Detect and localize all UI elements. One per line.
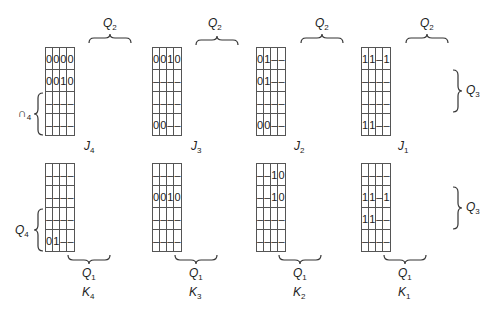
kmap-cell: –	[153, 164, 160, 186]
kmap-cell: 1	[362, 48, 369, 70]
kmap-cell: 0	[257, 114, 264, 136]
kmap-cell: –	[160, 230, 167, 252]
kmap-cell: 0	[53, 70, 60, 92]
kmap-cell: 0	[174, 48, 181, 70]
kmap-cell: –	[257, 186, 264, 208]
kmap-grid-j4: 0000 0010 –––– ––––	[45, 47, 75, 136]
kmap-cell: 0	[46, 70, 53, 92]
kmap-cell: 1	[167, 186, 174, 208]
kmap-cell: –	[53, 186, 60, 208]
kmap-cell: –	[67, 186, 74, 208]
kmap-cell: –	[264, 92, 271, 114]
kmap-cell: 1	[369, 186, 376, 208]
kmap-cell: 1	[271, 186, 278, 208]
kmap-cell: –	[271, 48, 278, 70]
kmap-cell: –	[53, 92, 60, 114]
kmap-cell: 1	[383, 186, 390, 208]
kmap-cell: –	[383, 92, 390, 114]
kmap-cell: –	[46, 92, 53, 114]
q1-brace-k1	[383, 255, 427, 265]
kmap-cell: –	[376, 114, 383, 136]
kmap-cell: –	[67, 114, 74, 136]
kmap-cell: 1	[362, 186, 369, 208]
kmap-cell: –	[60, 186, 67, 208]
kmap-grid-k4: –––– –––– –––– 01––	[45, 163, 75, 252]
kmap-cell: 0	[278, 164, 285, 186]
kmap-cell: –	[174, 164, 181, 186]
kmap-grid-k1: –––– 11–1 11–– ––––	[361, 163, 391, 252]
kmap-cell: –	[376, 92, 383, 114]
q2-label-j2: Q2	[315, 16, 329, 32]
kmap-cell: 0	[264, 114, 271, 136]
kmap-cell: 0	[153, 114, 160, 136]
q4-label-k4: Q4	[15, 223, 29, 239]
kmap-cell: –	[167, 164, 174, 186]
kmap-cell: –	[271, 70, 278, 92]
kmap-grid-j1: 11–1 –––– –––– 11––	[361, 47, 391, 136]
kmap-cell: –	[167, 230, 174, 252]
kmap-cell: –	[257, 92, 264, 114]
q2-label-j3: Q2	[208, 16, 222, 32]
kmap-cell: 1	[362, 114, 369, 136]
q2-label-j1: Q2	[420, 16, 434, 32]
kmap-cell: –	[369, 164, 376, 186]
kmap-cell: –	[160, 70, 167, 92]
kmap-cell: –	[67, 164, 74, 186]
kmap-cell: –	[53, 208, 60, 230]
q4-brace-k4	[34, 208, 44, 252]
kmap-cell: 0	[67, 70, 74, 92]
kmap-cell: –	[167, 92, 174, 114]
q2-brace-j4	[88, 34, 132, 44]
kmap-cell: –	[264, 186, 271, 208]
q3-brace-k1	[452, 186, 462, 230]
kmap-cell: –	[153, 70, 160, 92]
kmap-cell: –	[271, 114, 278, 136]
kmap-cell: 0	[278, 186, 285, 208]
kmap-cell: –	[257, 164, 264, 186]
q1-brace-k4	[67, 255, 111, 265]
kmap-cell: –	[53, 114, 60, 136]
kmap-cell: 1	[264, 70, 271, 92]
kmap-cell: –	[174, 70, 181, 92]
kmap-cell: –	[376, 230, 383, 252]
map-title-j1: J1	[398, 139, 408, 155]
q3-label-j1: Q3	[466, 83, 480, 99]
q3-label-k1: Q3	[466, 200, 480, 216]
kmap-cell: 0	[174, 186, 181, 208]
kmap-cell: –	[60, 208, 67, 230]
kmap-cell: 1	[60, 70, 67, 92]
kmap-cell: 0	[153, 186, 160, 208]
q2-brace-j2	[300, 34, 344, 44]
kmap-cell: –	[46, 186, 53, 208]
kmap-cell: –	[60, 230, 67, 252]
kmap-cell: 1	[167, 48, 174, 70]
kmap-cell: –	[264, 164, 271, 186]
kmap-cell: –	[60, 164, 67, 186]
kmap-cell: –	[271, 230, 278, 252]
kmap-cell: 1	[383, 48, 390, 70]
kmap-cell: 0	[153, 48, 160, 70]
map-title-k2: K2	[293, 285, 305, 301]
kmap-cell: –	[174, 114, 181, 136]
kmap-cell: –	[153, 208, 160, 230]
kmap-cell: –	[174, 230, 181, 252]
kmap-cell: –	[264, 230, 271, 252]
kmap-cell: –	[362, 70, 369, 92]
kmap-cell: –	[264, 208, 271, 230]
kmap-cell: –	[160, 208, 167, 230]
kmap-cell: 1	[369, 114, 376, 136]
kmap-cell: –	[362, 164, 369, 186]
q1-label-k1: Q1	[398, 266, 412, 282]
kmap-cell: 0	[67, 48, 74, 70]
q2-label-j4: Q2	[103, 16, 117, 32]
kmap-cell: 0	[60, 48, 67, 70]
kmap-cell: –	[271, 208, 278, 230]
kmap-cell: –	[257, 230, 264, 252]
q1-label-k3: Q1	[189, 266, 203, 282]
kmap-cell: 0	[160, 114, 167, 136]
kmap-cell: –	[278, 114, 285, 136]
kmap-cell: –	[376, 70, 383, 92]
q3-brace-j1	[452, 69, 462, 113]
map-title-k4: K4	[82, 285, 94, 301]
kmap-cell: –	[383, 164, 390, 186]
